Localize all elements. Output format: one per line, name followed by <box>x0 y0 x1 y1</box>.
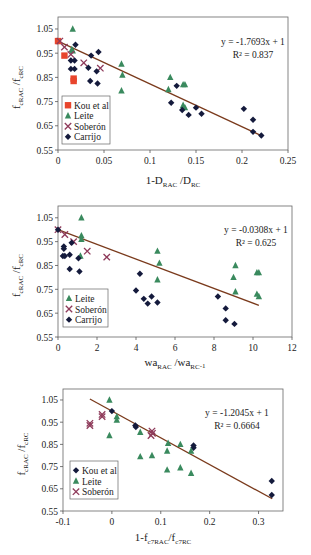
y-tick-label: 0.55 <box>36 146 53 156</box>
x-tick-label: 2 <box>95 343 100 353</box>
legend: Kou et alLeiteSoberón <box>70 461 118 499</box>
x-axis-label: 1-DRAC /DRC <box>146 174 201 189</box>
r-squared-label: R² = 0.625 <box>236 238 277 248</box>
regression-equation: y = -0.0308x + 1 <box>224 225 288 235</box>
legend-label: Leite <box>74 111 94 121</box>
r-squared-label: R² = 0.837 <box>233 50 274 60</box>
y-tick-label: 0.65 <box>41 484 58 494</box>
x-tick-label: 10 <box>248 343 258 353</box>
legend-label: Soberón <box>75 305 107 315</box>
data-point-kou-et-al <box>61 52 67 58</box>
y-tick-label: 0.95 <box>41 418 58 428</box>
regression-equation: y = -1.7693x + 1 <box>221 37 285 47</box>
y-axis-label: fcRAC /fcRC <box>10 66 25 109</box>
legend-label: Carrijo <box>75 315 102 325</box>
x-tick-label: 12 <box>287 343 297 353</box>
legend-label: Kou et al <box>74 101 109 111</box>
chart-strength-vs-density: 0.550.650.750.850.951.0500.050.10.150.20… <box>0 0 311 190</box>
x-tick-label: 0 <box>56 156 61 166</box>
y-tick-label: 0.55 <box>41 507 58 517</box>
x-tick-label: 0.05 <box>96 156 113 166</box>
legend-label: Soberón <box>82 487 114 497</box>
y-tick-label: 0.95 <box>36 49 53 59</box>
y-tick-label: 1.05 <box>36 24 53 34</box>
x-axis-label: 1-fc7RAC/fc7RC <box>135 531 192 546</box>
y-tick-label: 0.85 <box>41 440 58 450</box>
legend-label: Leite <box>82 477 102 487</box>
y-tick-label: 0.85 <box>36 261 53 271</box>
y-tick-label: 0.95 <box>36 237 53 247</box>
x-tick-label: 4 <box>134 343 139 353</box>
chart-strength-vs-water-absorption: 0.550.650.750.850.951.05024681012waRAC /… <box>0 190 311 375</box>
legend-label: Soberón <box>74 122 106 132</box>
y-tick-label: 0.65 <box>36 309 53 319</box>
x-tick-label: 0.2 <box>236 156 248 166</box>
y-tick-label: 1.05 <box>41 395 58 405</box>
y-tick-label: 0.65 <box>36 121 53 131</box>
x-axis-label: waRAC /waRC-1 <box>144 356 206 371</box>
regression-equation: y = -1.2045x + 1 <box>205 408 269 418</box>
y-tick-label: 0.75 <box>41 462 58 472</box>
legend: Kou et alLeiteSoberónCarrijo <box>62 96 110 144</box>
x-tick-label: 0.2 <box>204 517 216 527</box>
legend-label: Kou et al <box>82 466 117 476</box>
x-tick-label: 0.1 <box>144 156 156 166</box>
r-squared-label: R² = 0.6664 <box>214 421 260 431</box>
x-tick-label: 0.3 <box>253 517 265 527</box>
x-tick-label: 0.15 <box>188 156 205 166</box>
data-point-kou-et-al <box>70 78 76 84</box>
x-tick-label: 6 <box>173 343 178 353</box>
y-axis-label: fcRAC /fcRC <box>10 254 25 297</box>
legend-marker-kou-et-al <box>65 102 71 108</box>
x-tick-label: 0 <box>56 343 61 353</box>
x-tick-label: 0.1 <box>155 517 167 527</box>
legend-label: Leite <box>75 294 95 304</box>
y-tick-label: 0.85 <box>36 73 53 83</box>
y-tick-label: 0.55 <box>36 333 53 343</box>
y-tick-label: 0.75 <box>36 285 53 295</box>
y-axis-label: fcRAC /fcRC <box>15 432 30 475</box>
x-tick-label: 8 <box>212 343 217 353</box>
x-tick-label: 0.25 <box>280 156 297 166</box>
x-tick-label: -0.1 <box>55 517 70 527</box>
x-tick-label: 0 <box>110 517 115 527</box>
legend-label: Carrijo <box>74 132 101 142</box>
y-tick-label: 1.05 <box>36 213 53 223</box>
legend: LeiteSoberónCarrijo <box>63 289 108 327</box>
y-tick-label: 0.75 <box>36 97 53 107</box>
chart-strength-vs-7day-strength: 0.550.650.750.850.951.05-0.100.10.20.31-… <box>0 375 311 555</box>
